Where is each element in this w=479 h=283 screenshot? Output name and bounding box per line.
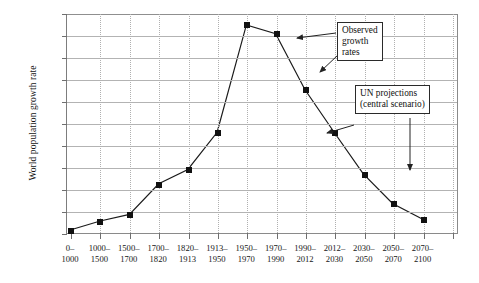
- x-tick-mark: [424, 233, 425, 239]
- gridline-vertical: [306, 14, 307, 233]
- x-tick-mark: [365, 233, 366, 239]
- y-tick-mark: [62, 212, 67, 213]
- x-tick-mark: [247, 233, 248, 239]
- y-tick-mark: [62, 234, 67, 235]
- x-tick-mark: [453, 233, 454, 239]
- gridline-vertical: [335, 14, 336, 233]
- y-tick-mark: [62, 14, 67, 15]
- data-point-marker: [332, 130, 338, 136]
- y-axis-title: World population growth rate: [28, 28, 38, 218]
- gridline-horizontal: [67, 102, 457, 103]
- x-tick-mark: [306, 233, 307, 239]
- gridline-horizontal: [67, 58, 457, 59]
- data-point-marker: [303, 87, 309, 93]
- x-tick-label: 2070–2100: [395, 243, 451, 264]
- x-tick-mark: [100, 233, 101, 239]
- x-tick-label-start: 2070–: [395, 243, 451, 254]
- data-point-marker: [244, 22, 250, 28]
- gridline-vertical: [100, 14, 101, 233]
- gridline-horizontal: [67, 124, 457, 125]
- data-point-marker: [391, 201, 397, 207]
- x-tick-mark: [335, 233, 336, 239]
- y-tick-mark: [62, 36, 67, 37]
- y-tick-mark: [62, 58, 67, 59]
- gridline-vertical: [189, 14, 190, 233]
- x-tick-mark: [71, 233, 72, 239]
- gridline-vertical: [424, 14, 425, 233]
- gridline-vertical: [159, 14, 160, 233]
- gridline-horizontal: [67, 80, 457, 81]
- x-tick-mark: [189, 233, 190, 239]
- gridline-horizontal: [67, 190, 457, 191]
- figure-caption: [0, 274, 479, 283]
- data-point-marker: [362, 172, 368, 178]
- y-tick-mark: [62, 102, 67, 103]
- x-tick-mark: [394, 233, 395, 239]
- gridline-vertical: [277, 14, 278, 233]
- gridline-vertical: [453, 14, 454, 233]
- gridline-vertical: [365, 14, 366, 233]
- data-point-marker: [215, 130, 221, 136]
- x-tick-mark: [277, 233, 278, 239]
- gridline-horizontal: [67, 36, 457, 37]
- y-tick-mark: [62, 124, 67, 125]
- gridline-horizontal: [67, 168, 457, 169]
- gridline-vertical: [218, 14, 219, 233]
- data-point-marker: [274, 31, 280, 37]
- gridline-horizontal: [67, 212, 457, 213]
- gridline-vertical: [130, 14, 131, 233]
- x-tick-mark: [218, 233, 219, 239]
- gridline-horizontal: [67, 14, 457, 15]
- x-tick-mark: [130, 233, 131, 239]
- data-point-marker: [97, 219, 103, 225]
- data-point-marker: [421, 217, 427, 223]
- gridline-vertical: [394, 14, 395, 233]
- plot-area: 0.0%0.2%0.4%0.6%0.8%1.0%1.2%1.4%1.6%1.8%…: [66, 14, 458, 234]
- x-tick-label-end: 2100: [395, 254, 451, 265]
- y-tick-mark: [62, 146, 67, 147]
- data-point-marker: [186, 167, 192, 173]
- data-point-marker: [127, 212, 133, 218]
- y-tick-mark: [62, 190, 67, 191]
- y-tick-mark: [62, 168, 67, 169]
- x-tick-mark: [159, 233, 160, 239]
- data-point-marker: [156, 182, 162, 188]
- gridline-horizontal: [67, 146, 457, 147]
- data-point-marker: [68, 228, 74, 234]
- gridline-vertical: [247, 14, 248, 233]
- y-tick-mark: [62, 80, 67, 81]
- chart-figure: World population growth rate 0.0%0.2%0.4…: [0, 0, 479, 283]
